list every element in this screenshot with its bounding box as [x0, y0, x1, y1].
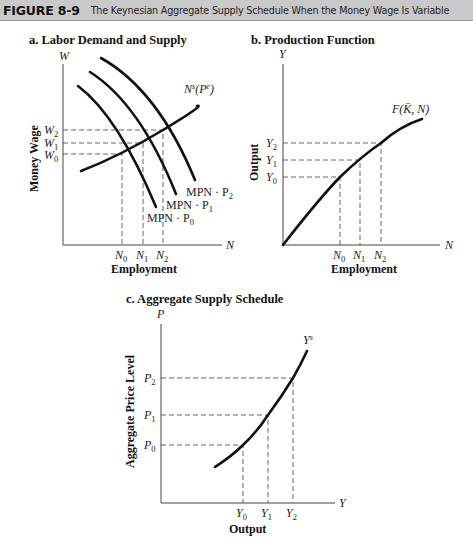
y-axis-label: Money Wage [27, 125, 41, 192]
x-axis-label: Output [229, 522, 266, 536]
x-axis-label: Employment [331, 262, 397, 276]
tick-n2: N2 [155, 248, 168, 264]
tick-y2: Y2 [286, 506, 297, 522]
y-axis-label: Aggregate Price Level [123, 354, 137, 468]
labor-supply-label: Ns(Pe) [183, 82, 214, 96]
panel-a-labor-market: a. Labor Demand and Supply W N Money Wag… [27, 33, 235, 276]
tick-p2: P2 [143, 371, 156, 387]
y-axis-symbol-y: Y [279, 47, 287, 61]
production-function-curve [283, 119, 422, 245]
y-axis-symbol-p: P [156, 307, 165, 321]
tick-p1: P1 [143, 408, 156, 424]
tick-n0: N0 [332, 248, 345, 264]
tick-y1: Y1 [266, 153, 277, 169]
y-axis-symbol-w: W [59, 49, 70, 63]
guide-p1-y1 [161, 415, 268, 503]
tick-n1: N1 [352, 248, 365, 264]
tick-n1: N1 [135, 248, 148, 264]
panel-a-title: a. Labor Demand and Supply [29, 33, 188, 47]
tick-y0: Y0 [236, 506, 247, 522]
tick-y0: Y0 [266, 170, 277, 186]
tick-y1: Y1 [261, 506, 272, 522]
guide-p2-y2 [161, 378, 293, 503]
figure-canvas: a. Labor Demand and Supply W N Money Wag… [0, 0, 473, 542]
y-axis-label: Output [247, 144, 261, 181]
panel-c-aggregate-supply: c. Aggregate Supply Schedule P Y Aggrega… [123, 292, 347, 536]
x-axis-label: Employment [111, 262, 177, 276]
tick-p0: P0 [143, 438, 156, 454]
tick-n0: N0 [114, 248, 127, 264]
guide-p0-y0 [161, 445, 243, 503]
panel-c-title: c. Aggregate Supply Schedule [126, 292, 284, 306]
panel-b-title: b. Production Function [251, 33, 375, 47]
x-axis-symbol-n: N [444, 238, 454, 252]
production-function-label: F(K̄, N) [391, 102, 429, 116]
x-axis-symbol-y: Y [339, 496, 347, 510]
panel-b-production-function: b. Production Function Y N Output Employ… [247, 33, 454, 276]
guide-w1-n1 [63, 143, 143, 245]
aggregate-supply-label: Ys [303, 333, 313, 347]
tick-y2: Y2 [266, 136, 277, 152]
labor-demand-p0-curve [78, 86, 156, 207]
labor-supply-curve [81, 106, 199, 171]
mpn-p0-label: MPN · P0 [147, 211, 194, 227]
tick-n2: N2 [373, 248, 386, 264]
guide-y2-n2 [283, 143, 381, 245]
x-axis-symbol-n: N [225, 238, 235, 252]
